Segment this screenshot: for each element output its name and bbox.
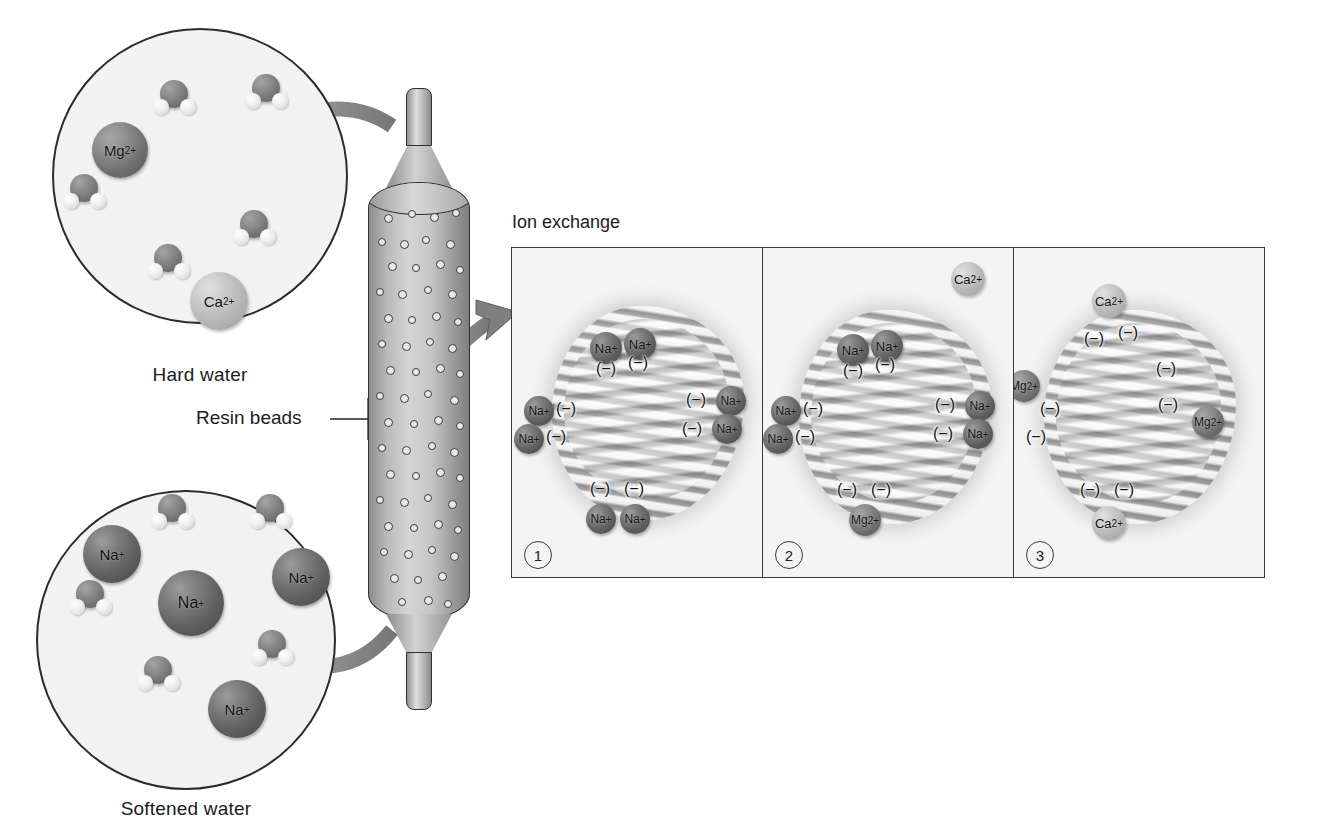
- ion-charge: +: [783, 434, 789, 445]
- ion-charge: +: [534, 434, 540, 445]
- resin-negative-site: (−): [590, 480, 610, 498]
- resin-negative-site: (−): [1040, 400, 1060, 418]
- ion-charge: +: [732, 424, 738, 435]
- ion-charge: +: [858, 345, 864, 356]
- ion-charge: 2+: [1112, 296, 1123, 307]
- ion-label: Mg: [851, 513, 868, 527]
- ion-charge: +: [308, 572, 314, 583]
- ion-label: Mg: [1014, 379, 1027, 393]
- ion-label: Na: [775, 404, 790, 418]
- ion-magnesium: Mg2+: [1192, 406, 1224, 438]
- ion-label: Na: [518, 432, 533, 446]
- ion-sodium: Na+: [712, 414, 742, 444]
- ion-label: Ca: [954, 272, 971, 287]
- ion-sodium: Na+: [208, 680, 266, 738]
- resin-negative-site: (−): [803, 400, 823, 418]
- water-molecule: [244, 72, 288, 112]
- ion-charge: +: [611, 343, 617, 354]
- softened-water-caption: Softened water: [36, 798, 336, 820]
- outlet-pipe: [406, 652, 432, 710]
- ion-charge: 2+: [971, 274, 982, 285]
- ion-label: Na: [767, 432, 782, 446]
- ion-charge: 2+: [125, 145, 136, 156]
- resin-negative-site: (−): [556, 400, 576, 418]
- ion-sodium: Na+: [771, 396, 801, 426]
- ion-charge: +: [892, 341, 898, 352]
- ion-exchange-panel: Na+ Na+ (−) (−) (−) Na+ (−) Na+ Na+ (−) …: [511, 247, 1265, 578]
- ion-label: Na: [716, 422, 731, 436]
- step-badge-1: 1: [524, 541, 552, 569]
- step-badge-2: 2: [775, 541, 803, 569]
- ion-magnesium: Mg2+: [849, 504, 881, 536]
- resin-negative-site: (−): [628, 354, 648, 372]
- ion-charge: 2+: [1027, 381, 1038, 392]
- resin-negative-site: (−): [1118, 324, 1138, 342]
- ion-label: Na: [590, 512, 605, 526]
- ion-charge: 2+: [1211, 417, 1222, 428]
- ion-label: Ca: [1095, 516, 1112, 531]
- resin-negative-site: (−): [871, 481, 891, 499]
- water-molecule: [68, 578, 112, 618]
- ion-sodium: Na+: [586, 504, 616, 534]
- step-badge-3: 3: [1026, 541, 1054, 569]
- resin-negative-site: (−): [1084, 330, 1104, 348]
- ion-sodium: Na+: [763, 424, 793, 454]
- ion-label: Na: [99, 546, 118, 563]
- ion-sodium: Na+: [965, 391, 995, 421]
- ion-label: Na: [876, 339, 893, 354]
- ion-exchange-step-3: Ca2+ (−) (−) (−) (−) Mg2+ Mg2+ (−) (−) (…: [1014, 248, 1264, 577]
- ion-charge: 2+: [868, 515, 879, 526]
- resin-negative-site: (−): [1158, 396, 1178, 414]
- ion-label: Ca: [204, 293, 223, 310]
- ion-charge: +: [640, 514, 646, 525]
- water-molecule: [150, 492, 194, 532]
- ion-label: Na: [224, 701, 243, 718]
- ion-label: Na: [624, 512, 639, 526]
- inlet-pipe: [406, 88, 432, 146]
- tank-shoulder-bottom: [386, 614, 452, 654]
- resin-negative-site: (−): [837, 481, 857, 499]
- ion-charge: +: [736, 396, 742, 407]
- ion-label: Mg: [1194, 415, 1211, 429]
- ion-sodium: Na+: [716, 386, 746, 416]
- ion-charge: +: [544, 406, 550, 417]
- resin-negative-site: (−): [1156, 360, 1176, 378]
- ion-sodium: Na+: [620, 504, 650, 534]
- ion-exchange-step-2: Ca2+ Na+ Na+ (−) (−) (−) Na+ (−) Na+ Na+: [763, 248, 1014, 577]
- ion-charge: +: [983, 429, 989, 440]
- hard-water-caption: Hard water: [52, 364, 348, 386]
- ion-charge: +: [645, 339, 651, 350]
- resin-negative-site: (−): [935, 396, 955, 414]
- ion-sodium: Na+: [272, 548, 330, 606]
- water-molecule: [62, 172, 106, 212]
- ion-magnesium: Mg2+: [92, 122, 148, 178]
- resin-negative-site: (−): [596, 360, 616, 378]
- resin-beads-label: Resin beads: [196, 407, 302, 429]
- ion-sodium: Na+: [83, 525, 141, 583]
- resin-negative-site: (−): [682, 420, 702, 438]
- ion-label: Na: [720, 394, 735, 408]
- ion-exchange-step-1: Na+ Na+ (−) (−) (−) Na+ (−) Na+ Na+ (−) …: [512, 248, 763, 577]
- ion-sodium: Na+: [524, 396, 554, 426]
- ion-charge: +: [198, 598, 204, 609]
- ion-charge: +: [606, 514, 612, 525]
- diagram-canvas: Mg2+ Ca2+ Hard water Na+ Na+ Na+ Na+ Sof…: [0, 0, 1318, 831]
- water-molecule: [232, 208, 276, 248]
- ion-charge: +: [985, 401, 991, 412]
- water-molecule: [136, 654, 180, 694]
- ion-sodium: Na+: [158, 570, 224, 636]
- ion-label: Na: [842, 343, 859, 358]
- water-molecule: [152, 78, 196, 118]
- ion-magnesium: Mg2+: [1014, 370, 1040, 402]
- ion-exchange-title: Ion exchange: [512, 212, 620, 233]
- ion-label: Na: [595, 341, 612, 356]
- resin-negative-site: (−): [1080, 481, 1100, 499]
- resin-negative-site: (−): [795, 428, 815, 446]
- ion-label: Na: [288, 569, 307, 586]
- ion-label: Na: [528, 404, 543, 418]
- ion-sodium: Na+: [514, 424, 544, 454]
- ion-label: Na: [178, 594, 198, 612]
- ion-charge: +: [791, 406, 797, 417]
- resin-negative-site: (−): [624, 480, 644, 498]
- resin-negative-site: (−): [686, 391, 706, 409]
